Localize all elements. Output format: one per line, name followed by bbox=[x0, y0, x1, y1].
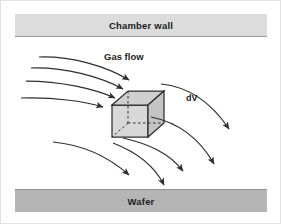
flow-artwork bbox=[1, 1, 281, 224]
flow-arrow bbox=[123, 138, 183, 171]
flow-arrow bbox=[21, 98, 103, 107]
cube-front-face bbox=[112, 105, 148, 137]
flow-arrow bbox=[161, 84, 229, 129]
flow-arrow bbox=[26, 81, 115, 98]
gas-flow-diagram: Chamber wall Wafer Gas flow dV bbox=[0, 0, 281, 224]
control-volume-cube bbox=[112, 91, 164, 137]
flow-arrow bbox=[53, 142, 129, 175]
